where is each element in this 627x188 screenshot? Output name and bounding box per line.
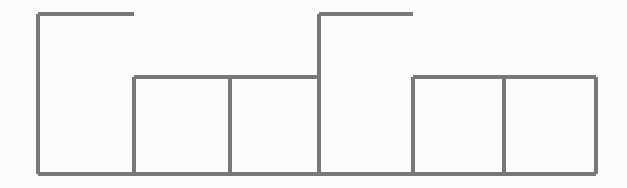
plot-background <box>0 0 627 188</box>
histogram-figure <box>0 0 627 188</box>
histogram-chart <box>0 0 627 188</box>
